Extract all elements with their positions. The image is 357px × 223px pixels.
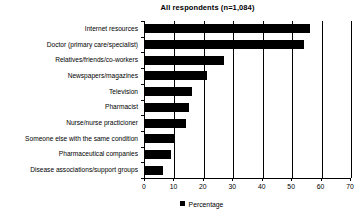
chart-legend: Percentage (0, 200, 357, 208)
y-axis-tick (141, 178, 144, 179)
bar-row (145, 162, 351, 178)
bar-row (145, 115, 351, 131)
x-axis-tick (173, 178, 174, 181)
y-axis-label: Newspapers/magazines (0, 72, 138, 80)
x-axis-tick (144, 178, 145, 181)
x-axis-tick-label: 30 (220, 183, 244, 190)
x-axis-tick-label: 50 (279, 183, 303, 190)
y-axis-tick (141, 84, 144, 85)
bar (145, 166, 163, 175)
y-axis-label: Pharmacist (0, 103, 138, 111)
x-axis-tick (321, 178, 322, 181)
bar (145, 103, 189, 112)
bar (145, 56, 224, 65)
y-axis-tick (141, 162, 144, 163)
y-axis-label: Pharmaceutical companies (0, 150, 138, 158)
bar-row (145, 21, 351, 37)
y-axis-category-labels: Internet resourcesDoctor (primary care/s… (0, 21, 141, 178)
bar (145, 87, 192, 96)
x-axis-line (144, 178, 350, 179)
y-axis-tick (141, 147, 144, 148)
bar-row (145, 68, 351, 84)
bar-row (145, 100, 351, 116)
gridline (351, 21, 352, 178)
y-axis-label: Relatives/friends/co-workers (0, 56, 138, 64)
y-axis-label: Nurse/nurse practicioner (0, 119, 138, 127)
x-axis-tick (291, 178, 292, 181)
bar-rows (145, 21, 351, 178)
y-axis-label: Internet resources (0, 25, 138, 33)
bar (145, 150, 171, 159)
plot-area (144, 21, 351, 178)
y-axis-tick (141, 115, 144, 116)
legend-label: Percentage (189, 201, 224, 208)
bar (145, 119, 186, 128)
bar-chart-figure: All respondents (n=1,084) Internet resou… (0, 0, 357, 223)
bar (145, 134, 174, 143)
x-axis-tick (350, 178, 351, 181)
x-axis-tick (262, 178, 263, 181)
x-axis-tick (203, 178, 204, 181)
bar (145, 40, 304, 49)
y-axis-tick (141, 37, 144, 38)
bar (145, 71, 207, 80)
bar-row (145, 147, 351, 163)
bar-row (145, 37, 351, 53)
x-axis-tick-label: 20 (191, 183, 215, 190)
y-axis-tick (141, 21, 144, 22)
y-axis-label: Disease associations/support groups (0, 166, 138, 174)
x-axis-tick (232, 178, 233, 181)
x-axis-tick-label: 10 (161, 183, 185, 190)
y-axis-tick (141, 68, 144, 69)
bar (145, 24, 310, 33)
y-axis-label: Someone else with the same condition (0, 135, 138, 143)
y-axis-tick (141, 100, 144, 101)
x-axis-tick-label: 70 (338, 183, 357, 190)
y-axis-label: Television (0, 88, 138, 96)
x-axis-tick-label: 40 (250, 183, 274, 190)
y-axis-tick (141, 52, 144, 53)
bar-row (145, 52, 351, 68)
x-axis-tick-label: 60 (309, 183, 333, 190)
y-axis-tick (141, 131, 144, 132)
bar-row (145, 131, 351, 147)
x-axis-tick-label: 0 (132, 183, 156, 190)
bar-row (145, 84, 351, 100)
y-axis-label: Doctor (primary care/specialist) (0, 41, 138, 49)
legend-swatch-icon (180, 201, 185, 206)
chart-title: All respondents (n=1,084) (0, 3, 357, 12)
